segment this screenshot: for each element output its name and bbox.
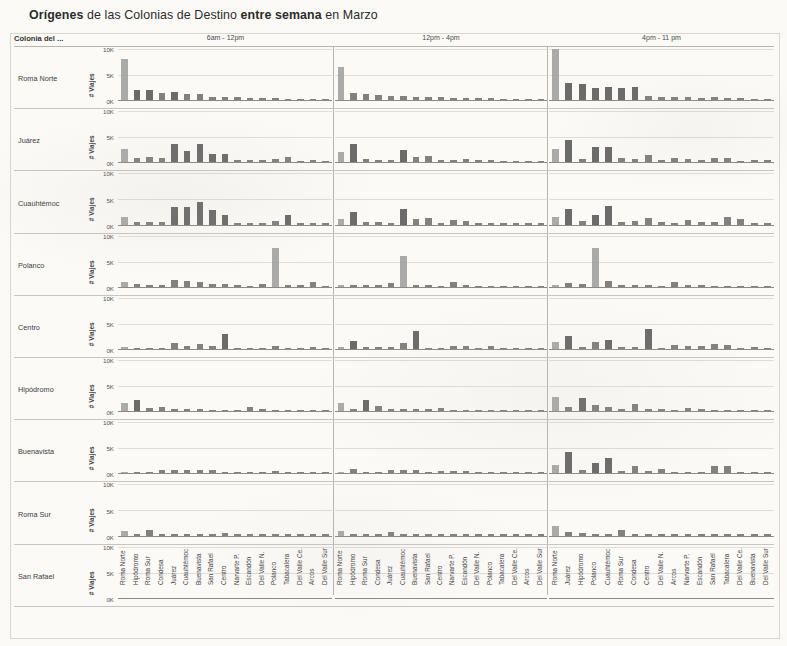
row-label-centro[interactable]: Centro [18, 323, 40, 332]
bar[interactable] [592, 534, 599, 536]
bar[interactable] [475, 348, 481, 349]
x-tick-label[interactable]: Tabacalera [283, 554, 290, 585]
bar[interactable] [197, 282, 204, 287]
bar[interactable] [413, 331, 419, 349]
bar[interactable] [184, 207, 191, 225]
bar[interactable] [645, 96, 652, 101]
bar[interactable] [671, 223, 678, 225]
bar[interactable] [513, 348, 519, 349]
bar[interactable] [438, 97, 444, 100]
x-tick-label[interactable]: Arcos [308, 569, 315, 585]
bar[interactable] [388, 470, 394, 474]
bar[interactable] [297, 285, 304, 287]
panel-ju-rez-1[interactable] [335, 111, 547, 163]
column-header-1[interactable]: 12pm - 4pm [335, 34, 547, 41]
bar[interactable] [513, 534, 519, 535]
x-tick-label[interactable]: Condesa [374, 559, 381, 585]
bar[interactable] [171, 207, 178, 225]
bar[interactable] [134, 400, 141, 411]
bar[interactable] [322, 99, 329, 100]
bar[interactable] [685, 97, 692, 101]
bar[interactable] [197, 94, 204, 100]
bar[interactable] [425, 156, 431, 162]
bar[interactable] [134, 222, 141, 225]
x-tick-label[interactable]: Del Valle Sur [536, 548, 543, 585]
bar[interactable] [222, 284, 229, 287]
bar[interactable] [450, 346, 456, 349]
bar[interactable] [121, 531, 128, 535]
bar[interactable] [259, 223, 266, 225]
bar[interactable] [513, 286, 519, 287]
panel-roma-sur-0[interactable] [118, 484, 332, 536]
bar[interactable] [388, 409, 394, 411]
bar[interactable] [737, 534, 744, 535]
bar[interactable] [592, 248, 599, 287]
bar[interactable] [463, 346, 469, 349]
bar[interactable] [751, 534, 758, 535]
bar[interactable] [711, 222, 718, 225]
bar[interactable] [247, 472, 254, 473]
bar[interactable] [322, 223, 329, 224]
bar[interactable] [413, 409, 419, 411]
x-tick-label[interactable]: Escandón [461, 557, 468, 585]
bar[interactable] [475, 534, 481, 535]
bar[interactable] [222, 533, 229, 535]
bar[interactable] [724, 158, 731, 162]
x-tick-label[interactable]: Polanco [486, 562, 493, 585]
bar[interactable] [618, 88, 625, 100]
bar[interactable] [724, 345, 731, 349]
x-tick-label[interactable]: Centro [643, 566, 650, 585]
bar[interactable] [488, 98, 494, 100]
bar[interactable] [171, 92, 178, 100]
bar[interactable] [525, 223, 531, 225]
bar[interactable] [475, 472, 481, 473]
bar[interactable] [463, 159, 469, 163]
bar[interactable] [658, 222, 665, 225]
bar[interactable] [632, 466, 639, 474]
bar[interactable] [285, 157, 292, 162]
bar[interactable] [413, 219, 419, 224]
bar[interactable] [632, 534, 639, 536]
bar[interactable] [297, 348, 304, 349]
x-tick-label[interactable]: Roma Norte [336, 551, 343, 585]
bar[interactable] [425, 218, 431, 224]
bar[interactable] [209, 154, 216, 163]
panel-roma-sur-1[interactable] [335, 484, 547, 536]
bar[interactable] [450, 98, 456, 101]
bar[interactable] [488, 346, 494, 349]
bar[interactable] [413, 285, 419, 287]
bar[interactable] [338, 152, 344, 163]
bar[interactable] [285, 534, 292, 535]
bar[interactable] [197, 534, 204, 535]
bar[interactable] [592, 405, 599, 411]
bar[interactable] [632, 159, 639, 163]
bar[interactable] [737, 286, 744, 287]
bar[interactable] [438, 534, 444, 536]
bar[interactable] [579, 84, 586, 100]
bar[interactable] [711, 534, 718, 535]
bar[interactable] [400, 150, 406, 163]
bar[interactable] [579, 347, 586, 349]
bar[interactable] [552, 526, 559, 536]
bar[interactable] [363, 94, 369, 100]
bar[interactable] [310, 99, 317, 100]
bar[interactable] [751, 223, 758, 225]
bar[interactable] [538, 348, 544, 349]
bar[interactable] [500, 472, 506, 473]
bar[interactable] [538, 161, 544, 162]
bar[interactable] [751, 286, 758, 287]
bar[interactable] [711, 466, 718, 473]
bar[interactable] [592, 215, 599, 224]
bar[interactable] [310, 160, 317, 162]
bar[interactable] [171, 409, 178, 411]
panel-centro-1[interactable] [335, 298, 547, 350]
x-tick-label[interactable]: Roma Sur [617, 556, 624, 585]
bar[interactable] [310, 534, 317, 535]
x-tick-label[interactable]: Escandón [245, 557, 252, 585]
bar[interactable] [171, 534, 178, 536]
bar[interactable] [737, 472, 744, 474]
bar[interactable] [658, 534, 665, 536]
x-tick-label[interactable]: Tabacalera [498, 554, 505, 585]
bar[interactable] [209, 470, 216, 474]
bar[interactable] [363, 534, 369, 536]
